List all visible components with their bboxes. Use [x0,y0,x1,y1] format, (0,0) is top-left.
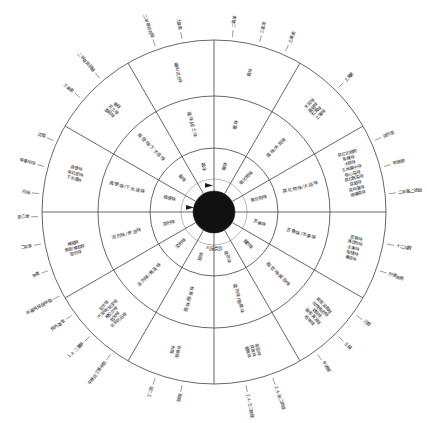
outer-ring-label: 樟脑味焦油/橡胶味溶剂味 [62,236,88,259]
inner-ring-label: 腐败味 [223,250,233,264]
external-compound-label: 壬醛 [342,340,353,351]
leader-line [34,244,41,245]
outer-ring-label: 霉味泥土味蘑菇味 [103,99,124,120]
leader-line [273,378,275,385]
middle-ring-label: 霉味 [231,119,240,130]
leader-line [286,45,289,51]
external-compound-label: 土臭素 [286,30,298,45]
leader-line [260,35,262,42]
leader-line [66,315,72,319]
leader-line [42,271,49,273]
external-compound-label: 甲基异丁基甲酮 [86,359,109,387]
arrow-left-icon [186,205,194,210]
leader-line [389,193,396,194]
leader-line [338,83,343,88]
leader-line [338,336,343,341]
outer-ring-label: 霉味/泥土味 [172,61,185,84]
leader-line [181,385,182,392]
external-compound-label: 1,4-二氯苯 [66,340,86,360]
leader-line [85,336,90,341]
odor-wheel-svg: 霉味氧化物味氧化物味芳香味脂肪味腐败味酸味溶剂味溶剂味粪便味霉味霉味 霉味腐味/… [0,0,427,423]
leader-line [380,271,387,273]
middle-ring-label: 脂肪味/腐败味 [265,261,292,288]
leader-line [75,93,80,98]
external-compound-label: 二氯苯 [230,15,238,29]
outer-ring-label: 肥皂味清洁剂味水果味柑橘味青草味 [342,232,366,263]
inner-ring-label: 脂肪味 [241,237,255,251]
leader-line [317,354,321,360]
outer-ring-label: 胶水味汽油味/油漆味橡胶点味鞋油味化学药品味 [92,293,130,331]
external-compound-label: 二甲基异莰醇 [141,14,156,40]
external-compound-label: 戊酸 [36,130,47,140]
inner-ring-label: 霉味 [199,162,208,173]
inner-ring-label: 氧化物味 [238,169,255,186]
external-compound-label: 吲哚 [22,188,32,196]
outer-ring-label: 霉味 [245,67,254,78]
middle-ring-label: 粪便味/下水道味 [136,132,167,163]
inner-ring-label: 霉味 [220,161,229,172]
outer-ring-label: 木耳味菌菇味松茸味土壤味 [303,96,328,121]
middle-ring-label: 酸味/酸臭味 [182,285,196,312]
leader-line [246,385,247,392]
leader-line [153,378,155,385]
leader-line [181,32,182,39]
external-compound-label: 辛烯醇 [320,360,333,375]
external-compound-label: 二甲基二硫醚 [398,186,424,196]
external-compound-label: 丁二酮 [146,385,156,399]
leader-line [95,73,100,78]
leader-line [232,30,233,37]
inner-ring-label: 酸味 [196,251,205,262]
inner-ring-label: 粪便味 [163,194,177,204]
outer-ring-label: 腐烂的植物鱼腥味大蒜味玉米罐头味卷心菜味腐烂蔬菜味臭鼬味臭鸡蛋味硫磺清味 [337,147,370,199]
leader-line [387,244,394,245]
middle-ring-label: 溶剂味/焦油味 [111,226,143,241]
external-compound-label: 二甲苯 [20,242,34,251]
external-compound-label: 甲基吲哚 [19,157,37,168]
middle-ring-label: 粪便味/下水道味 [109,179,146,195]
external-compound-label: 2,4-壬二烯醛 [244,393,256,419]
external-compound-label: 苯乙烯 [17,213,30,220]
inner-ring-label: 芳香味 [253,218,267,228]
middle-ring-label: 腐味/木耳味 [265,135,289,159]
external-compound-label: 土臭素 [62,81,76,95]
external-compound-label: 甲基丙烯酸甲酯 [25,297,54,317]
external-compound-label: 2,4-癸二烯醛 [273,385,288,411]
leader-line [37,165,44,167]
outer-ring-label: 脂肪味腐败味酸败味 [243,343,263,360]
inner-ring-label: 溶剂味 [162,217,176,227]
inner-ring-label: 氧化物味 [250,193,268,204]
external-compound-label: 醋酸 [175,392,184,402]
outer-ring-label: 腐败油脂味动物脂肪味蜡烛味酸败黄油味哈喇味 [300,296,335,331]
middle-ring-label: 腐败味/酸臭味 [231,282,246,314]
odor-wheel-figure: 霉味氧化物味氧化物味芳香味脂肪味腐败味酸味溶剂味溶剂味粪便味霉味霉味 霉味腐味/… [0,0,427,423]
leader-line [375,138,381,141]
inner-ring-label: 霉味 [177,173,188,184]
external-compound-label: 十二烷醛 [395,242,413,252]
middle-ring-label: 溶剂味/焦油味 [136,261,163,288]
middle-ring-label: 芳香味/水果味 [285,226,317,241]
leader-line [32,193,39,194]
leader-line [384,165,391,167]
external-compound-label: 三氯苯 [258,20,268,34]
external-compound-label: 异丙基苯 [49,317,67,333]
external-compound-label: 土臭素 [342,69,356,83]
leader-line [47,138,53,141]
external-compound-label: 甲苯 [31,270,42,280]
leader-line [53,296,59,299]
external-compound-label: 柠檬油精 [387,270,405,282]
external-compound-label: 己醛 [362,318,373,329]
hub-caption-label: 气味类别 [206,245,222,252]
leader-line [356,315,362,319]
outer-ring-label: 酸味酸臭味 [168,342,183,358]
arrow-up-icon [205,183,213,188]
leader-line [153,40,155,47]
wheel-hub [193,191,235,233]
external-compound-label: 土臭素 [175,18,184,32]
leader-line [106,354,110,360]
external-compound-label: 二甲基异莰醇 [76,51,98,75]
middle-ring-label: 腐化物味/大蒜味 [282,179,319,195]
external-compound-label: 甲硫醇 [392,157,406,167]
middle-ring-label: 霉味/泥土味 [185,111,199,138]
inner-ring-label: 溶剂味 [173,236,187,250]
outer-ring-label: 粪便味有机肥味下水道味 [65,163,86,184]
